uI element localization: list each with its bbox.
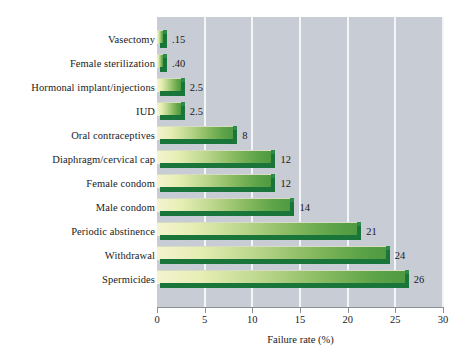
x-tick-10 [252, 307, 253, 313]
x-tick-25 [395, 307, 396, 313]
bar-bevel-right [405, 273, 409, 288]
bar-fill [157, 78, 181, 92]
bar-bevel-cap [233, 126, 237, 130]
x-tick-30 [443, 307, 444, 313]
category-label: Periodic abstinence [71, 226, 155, 237]
value-label: 12 [280, 178, 291, 189]
bar-fill [157, 222, 357, 236]
value-label: 2.5 [190, 106, 203, 117]
bar-bevel-cap [357, 222, 361, 226]
bar-bevel-right [357, 225, 361, 240]
bar-row: Spermicides26 [0, 267, 469, 291]
x-tick-0 [157, 307, 158, 313]
value-label: 14 [299, 202, 310, 213]
bar-bevel-bottom [160, 259, 389, 264]
value-label: 12 [280, 154, 291, 165]
bar-fill [157, 246, 386, 260]
category-label: Withdrawal [105, 250, 155, 261]
bar-fill [157, 198, 290, 212]
category-label: Male condom [96, 202, 155, 213]
bar-rows: Vasectomy.15Female sterilization.40Hormo… [0, 17, 469, 307]
bar-fill [157, 150, 271, 164]
x-tick-label-0: 0 [154, 314, 159, 325]
bar [157, 30, 163, 48]
bar [157, 126, 233, 144]
bar-bevel-right [181, 81, 185, 96]
bar-bevel-bottom [160, 283, 408, 288]
bar-bevel-bottom [160, 163, 274, 168]
bar-bevel-cap [181, 78, 185, 82]
category-label: Diaphragm/cervical cap [52, 154, 155, 165]
category-label: Vasectomy [108, 34, 155, 45]
bar [157, 222, 357, 240]
x-tick-label-20: 20 [342, 314, 353, 325]
bar-bevel-cap [181, 102, 185, 106]
category-label: Female sterilization [70, 58, 155, 69]
bar-bevel-bottom [160, 187, 274, 192]
bar [157, 174, 271, 192]
bar-row: IUD2.5 [0, 99, 469, 123]
bar [157, 102, 181, 120]
bar-fill [157, 174, 271, 188]
bar-row: Withdrawal24 [0, 243, 469, 267]
bar-bevel-cap [290, 198, 294, 202]
bar [157, 270, 405, 288]
value-label: 21 [366, 226, 377, 237]
bar-bevel-cap [271, 174, 275, 178]
category-label: Oral contraceptives [71, 130, 155, 141]
value-label: 24 [395, 250, 406, 261]
bar-bevel-cap [163, 54, 167, 58]
failure-rate-bar-chart: Vasectomy.15Female sterilization.40Hormo… [0, 0, 469, 363]
x-tick-label-25: 25 [390, 314, 401, 325]
bar-bevel-bottom [160, 139, 236, 144]
bar-row: Hormonal implant/injections2.5 [0, 75, 469, 99]
bar [157, 198, 290, 216]
bar-bevel-cap [405, 270, 409, 274]
bar-bevel-right [290, 201, 294, 216]
x-tick-label-5: 5 [202, 314, 207, 325]
bar-bevel-right [233, 129, 237, 144]
bar-bevel-cap [163, 30, 167, 34]
category-label: Hormonal implant/injections [31, 82, 155, 93]
category-label: Female condom [86, 178, 155, 189]
value-label: 26 [414, 274, 425, 285]
bar [157, 54, 163, 72]
value-label: .15 [172, 34, 185, 45]
bar-bevel-right [163, 57, 167, 72]
bar-row: Diaphragm/cervical cap12 [0, 147, 469, 171]
bar-bevel-right [386, 249, 390, 264]
x-tick-label-15: 15 [295, 314, 306, 325]
value-label: .40 [172, 58, 185, 69]
bar [157, 78, 181, 96]
x-tick-label-30: 30 [438, 314, 449, 325]
x-tick-20 [348, 307, 349, 313]
bar-row: Vasectomy.15 [0, 27, 469, 51]
bar-bevel-right [163, 33, 167, 48]
value-label: 8 [242, 130, 247, 141]
bar-row: Periodic abstinence21 [0, 219, 469, 243]
x-tick-label-10: 10 [247, 314, 258, 325]
bar-bevel-bottom [160, 211, 293, 216]
bar-row: Oral contraceptives8 [0, 123, 469, 147]
x-tick-5 [205, 307, 206, 313]
bar-bevel-cap [271, 150, 275, 154]
x-tick-15 [300, 307, 301, 313]
bar-bevel-right [271, 177, 275, 192]
bar [157, 150, 271, 168]
value-label: 2.5 [190, 82, 203, 93]
bar-bevel-right [181, 105, 185, 120]
bar-row: Female condom12 [0, 171, 469, 195]
bar-fill [157, 102, 181, 116]
category-label: Spermicides [102, 274, 155, 285]
bar-bevel-bottom [160, 235, 360, 240]
bar-bevel-right [271, 153, 275, 168]
bar [157, 246, 386, 264]
category-label: IUD [136, 106, 155, 117]
bar-fill [157, 126, 233, 140]
bar-row: Male condom14 [0, 195, 469, 219]
bar-bevel-cap [386, 246, 390, 250]
bar-fill [157, 270, 405, 284]
x-axis-title: Failure rate (%) [157, 334, 444, 345]
bar-row: Female sterilization.40 [0, 51, 469, 75]
